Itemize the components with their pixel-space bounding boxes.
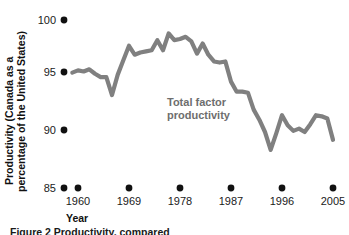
y-axis-title: Productivity (Canada as a percentage of … — [3, 31, 27, 192]
x-axis-tick-labels: 1960 1969 1978 1987 1996 2005 — [66, 195, 345, 207]
x-tick-dot-1969 — [126, 185, 133, 192]
y-tick-label-85: 85 — [44, 182, 56, 194]
y-tick-label-95: 95 — [44, 66, 56, 78]
y-tick-dot-95 — [61, 69, 68, 76]
x-tick-dot-2005 — [330, 185, 337, 192]
series-annotation: Total factor productivity — [167, 96, 231, 121]
y-tick-dot-90 — [61, 127, 68, 134]
series-line-total-factor-productivity — [72, 33, 333, 149]
figure-container: Productivity (Canada as a percentage of … — [0, 0, 349, 235]
y-tick-label-90: 90 — [44, 124, 56, 136]
annotation-line2: productivity — [167, 109, 231, 121]
figure-caption: Figure 2 Productivity, compared — [10, 226, 170, 235]
x-tick-label-1969: 1969 — [117, 195, 141, 207]
x-tick-label-1987: 1987 — [219, 195, 243, 207]
x-tick-label-1960: 1960 — [66, 195, 90, 207]
y-axis-title-line2: percentage of the United States) — [15, 31, 27, 192]
y-tick-dot-85 — [61, 185, 68, 192]
y-axis-title-line1: Productivity (Canada as a — [3, 56, 15, 185]
x-tick-dot-1996 — [279, 185, 286, 192]
productivity-line-chart: Productivity (Canada as a percentage of … — [0, 0, 349, 235]
x-tick-label-2005: 2005 — [321, 195, 345, 207]
x-axis-title: Year — [66, 212, 88, 224]
x-tick-dot-1960 — [75, 185, 82, 192]
annotation-line1: Total factor — [167, 96, 227, 108]
y-tick-dot-100 — [61, 17, 68, 24]
x-tick-dot-1987 — [228, 185, 235, 192]
x-tick-label-1996: 1996 — [270, 195, 294, 207]
x-tick-dot-1978 — [177, 185, 184, 192]
x-tick-label-1978: 1978 — [168, 195, 192, 207]
y-axis-ticks: 100 95 90 85 — [38, 14, 68, 194]
x-axis-ticks — [75, 185, 337, 192]
y-tick-label-100: 100 — [38, 14, 56, 26]
